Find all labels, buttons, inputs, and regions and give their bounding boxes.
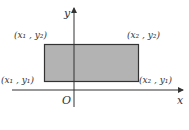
shaded-rectangle [45, 45, 139, 82]
corner-label-top-left: (x₁ , y₂) [14, 30, 47, 40]
x-axis-label: x [177, 94, 184, 107]
y-axis-label: y [63, 7, 71, 20]
corner-label-bottom-right: (x₂ , y₁) [139, 75, 172, 85]
coordinate-diagram: y x O (x₁ , y₂) (x₂ , y₂) (x₁ , y₁) (x₂ … [0, 0, 189, 130]
origin-label: O [62, 94, 71, 107]
corner-label-top-right: (x₂ , y₂) [127, 30, 160, 40]
corner-label-bottom-left: (x₁ , y₁) [1, 75, 34, 85]
